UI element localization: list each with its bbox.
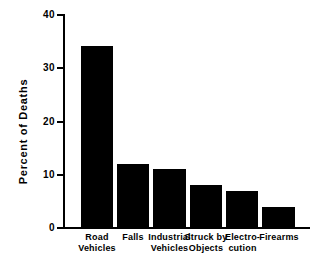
x-tick-label-group: Road Vehicles Falls Industrial Vehicles … bbox=[0, 232, 324, 263]
bar-falls bbox=[117, 164, 149, 228]
bar-road-vehicles bbox=[81, 46, 113, 228]
x-tick-label-firearms: Firearms bbox=[256, 232, 302, 243]
bar-electrocution bbox=[226, 191, 258, 228]
bar-firearms bbox=[262, 207, 295, 228]
bar-chart-figure: Percent of Deaths 40 30 20 10 0 Road Veh… bbox=[0, 0, 324, 263]
bar-struck-by-objects bbox=[190, 185, 222, 228]
bar-industrial-vehicles bbox=[153, 169, 186, 228]
bars-layer bbox=[0, 14, 324, 228]
